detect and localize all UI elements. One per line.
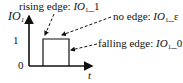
falling-edge-pointer [71,44,97,50]
no-edge-label: no edge: IO1_ε [113,11,179,22]
y-axis-label: IO1 [8,11,24,22]
pulse-signal [43,39,69,66]
x-axis-label: t [88,70,91,81]
rising-edge-label: rising edge: IO1_1 [19,1,100,12]
y-tick-1: 1 [13,35,19,46]
y-tick-0: 0 [18,60,24,71]
no-edge-pointer [62,17,111,35]
rising-edge-pointer [45,14,54,35]
falling-edge-label: falling edge: IO1_0 [98,38,182,49]
